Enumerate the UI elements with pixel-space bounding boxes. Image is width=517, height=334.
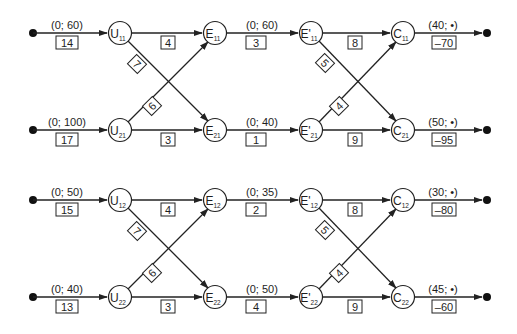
cost-label: –60 — [435, 301, 453, 313]
cost-label: 1 — [253, 134, 259, 146]
cost-label: 15 — [61, 204, 73, 216]
node-e21: E21 — [204, 119, 227, 142]
bounds-label: (0; 35) — [246, 186, 278, 198]
edge-e12p-c22 — [319, 208, 396, 288]
cost-box-diag: 5 — [315, 53, 334, 72]
edge-u21-e11 — [128, 42, 208, 122]
cost-label: 13 — [61, 301, 73, 313]
bounds-label: (0; 50) — [51, 186, 83, 198]
cost-label: –70 — [435, 37, 453, 49]
bounds-label: (0; 40) — [51, 283, 83, 295]
node-u22: U22 — [109, 286, 132, 309]
bounds-label: (30; •) — [428, 186, 458, 198]
node-e12-prime: E'12 — [300, 189, 323, 212]
bounds-label: (45; •) — [428, 283, 458, 295]
cost-label: 8 — [352, 37, 358, 49]
cost-box-diag: 6 — [142, 263, 161, 282]
bounds-label: (0; 60) — [51, 19, 83, 31]
edge-u22-e12 — [128, 209, 208, 289]
sink-dot — [483, 196, 491, 204]
sink-dot — [483, 29, 491, 37]
node-e12: E12 — [204, 189, 227, 212]
node-c11: C11 — [392, 22, 415, 45]
cost-label: 17 — [61, 134, 73, 146]
node-c21: C21 — [392, 119, 415, 142]
node-c12: C12 — [392, 189, 415, 212]
cost-box-diag: 5 — [315, 220, 334, 239]
cost-label: 4 — [165, 37, 171, 49]
bounds-label: (0; 100) — [48, 116, 86, 128]
edge-u12-e22 — [128, 208, 208, 288]
cost-label: 2 — [253, 204, 259, 216]
sink-dot — [483, 126, 491, 134]
node-e11: E11 — [204, 22, 227, 45]
cost-label: 4 — [253, 301, 259, 313]
edge-e22p-c12 — [319, 209, 396, 289]
cost-label: 3 — [165, 301, 171, 313]
node-e22: E22 — [204, 286, 227, 309]
cost-label: 3 — [253, 37, 259, 49]
node-e22-prime: E'22 — [300, 286, 323, 309]
cost-box-diag: 4 — [329, 96, 348, 115]
node-u21: U21 — [109, 119, 132, 142]
cost-label: 3 — [165, 134, 171, 146]
bounds-label: (0; 50) — [246, 283, 278, 295]
node-u11: U11 — [109, 22, 132, 45]
bounds-label: (0; 40) — [246, 116, 278, 128]
cost-label: 9 — [352, 134, 358, 146]
bounds-label: (40; •) — [428, 19, 458, 31]
network-diagram: (0; 60) 14 (0; 100) 17 4 3 7 6 (0; 60) 3 — [0, 0, 517, 334]
node-e21-prime: E'21 — [300, 119, 323, 142]
edge-e21p-c11 — [319, 42, 396, 122]
node-e11-prime: E'11 — [300, 22, 323, 45]
cost-label: 4 — [165, 204, 171, 216]
bounds-label: (50; •) — [428, 116, 458, 128]
edge-u11-e21 — [128, 41, 208, 121]
block-2: (0; 50) 15 (0; 40) 13 4 3 7 6 (0; 35) 2 … — [29, 186, 491, 313]
cost-label: 14 — [61, 37, 73, 49]
block-1: (0; 60) 14 (0; 100) 17 4 3 7 6 (0; 60) 3 — [29, 19, 491, 146]
cost-label: –80 — [435, 204, 453, 216]
cost-label: –95 — [435, 134, 453, 146]
bounds-label: (0; 60) — [246, 19, 278, 31]
cost-box-diag: 4 — [329, 263, 348, 282]
node-c22: C22 — [392, 286, 415, 309]
node-u12: U12 — [109, 189, 132, 212]
cost-label: 8 — [352, 204, 358, 216]
edge-e11p-c21 — [319, 41, 396, 121]
sink-dot — [483, 293, 491, 301]
cost-box-diag: 6 — [142, 96, 161, 115]
cost-label: 9 — [352, 301, 358, 313]
